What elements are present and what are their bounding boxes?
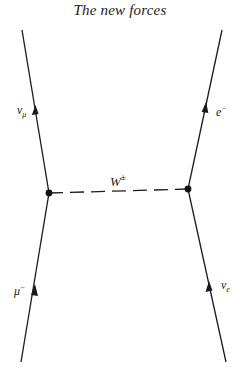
- vertex-right: [185, 186, 192, 193]
- feynman-diagram: W± νμ e− μ− νe: [0, 0, 240, 374]
- arrow-up-icon: [31, 284, 38, 296]
- fermion-line-muon: [21, 193, 49, 362]
- arrow-up-icon: [206, 281, 213, 292]
- muon-label: μ−: [13, 283, 25, 298]
- arrow-up-icon: [202, 102, 209, 113]
- electron-label: e−: [216, 104, 227, 119]
- vertex-left: [46, 190, 53, 197]
- nu-e-label: νe: [221, 278, 230, 294]
- nu-mu-label: νμ: [17, 103, 26, 119]
- w-boson-label: W±: [110, 172, 126, 189]
- w-boson-propagator: [49, 189, 188, 193]
- arrow-up-icon: [32, 105, 39, 115]
- fermion-line-nu-e: [188, 189, 226, 362]
